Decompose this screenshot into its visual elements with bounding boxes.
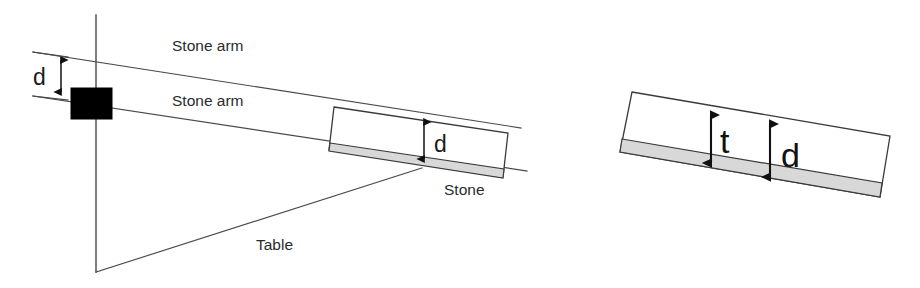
gap-extension-upper xyxy=(33,52,68,57)
table-line xyxy=(96,168,422,272)
label-left-stone-dimension-d: d xyxy=(434,131,447,157)
left-figure: Stone arm Stone arm Stone Table d d xyxy=(33,15,527,272)
label-table: Table xyxy=(256,236,293,253)
label-thickness-t: t xyxy=(720,122,730,160)
label-stone-arm-lower: Stone arm xyxy=(172,92,244,109)
pivot-block xyxy=(71,88,112,119)
label-offset-d: d xyxy=(781,136,800,174)
diagram-root: Stone arm Stone arm Stone Table d d t d xyxy=(0,0,920,288)
right-figure: t d xyxy=(620,92,890,197)
label-gap-dimension-d: d xyxy=(33,64,46,90)
diagram-canvas: Stone arm Stone arm Stone Table d d t d xyxy=(0,0,920,288)
label-stone: Stone xyxy=(444,181,485,198)
label-stone-arm-upper: Stone arm xyxy=(172,37,244,54)
gap-extension-lower xyxy=(33,96,68,100)
